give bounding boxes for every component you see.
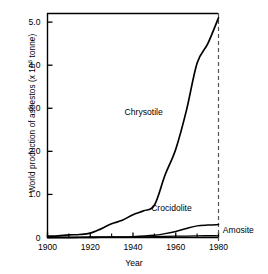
- x-axis-title: Year: [0, 258, 268, 268]
- y-tick-label: 5.0: [29, 17, 41, 27]
- x-tick-label: 1900: [38, 242, 57, 252]
- x-tick-label: 1940: [123, 242, 142, 252]
- y-axis-title: World production of asbestos (x 106 tonn…: [27, 28, 38, 198]
- y-axis-title-main: World production of asbestos (x 10: [28, 63, 37, 193]
- y-axis-title-exponent: 6: [27, 60, 33, 63]
- chart-plot-canvas: 01.02.03.04.05.0 19001920194019601980 Ch…: [0, 0, 268, 274]
- asbestos-production-chart: 01.02.03.04.05.0 19001920194019601980 Ch…: [0, 0, 268, 274]
- crocidolite-label: Crocidolite: [151, 203, 192, 213]
- chrysotile-label: Chrysotile: [125, 107, 163, 117]
- x-tick-label: 1980: [209, 242, 228, 252]
- y-axis-title-tail: tonne): [28, 34, 37, 60]
- x-tick-label: 1920: [81, 242, 100, 252]
- x-tick-label: 1960: [166, 242, 185, 252]
- amosite-label: Amosite: [223, 225, 254, 235]
